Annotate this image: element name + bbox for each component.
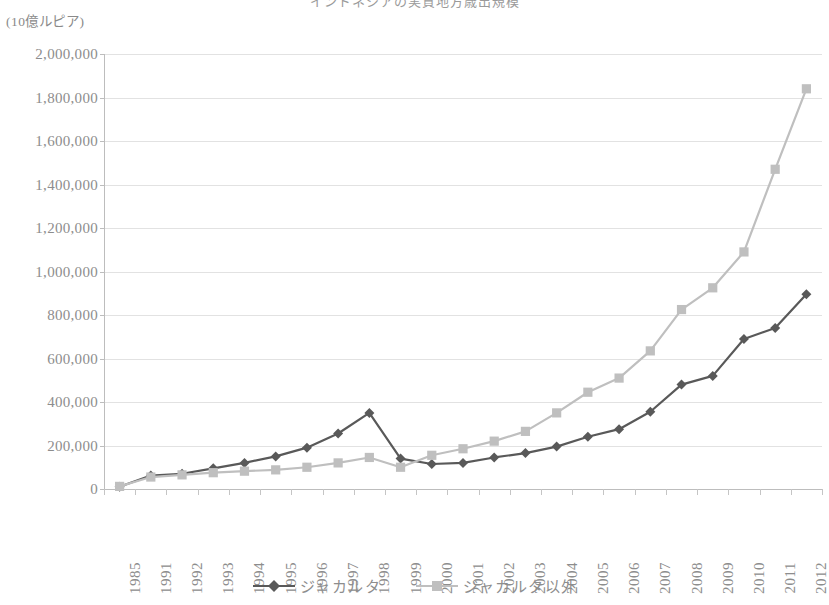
legend-diamond-icon [252,578,296,594]
data-point-marker [614,373,623,382]
y-axis-tick-label: 200,000 [6,437,98,454]
data-point-marker [458,444,467,453]
data-point-marker [583,388,592,397]
chart-title: インドネシアの実質地方歳出規模 [0,0,829,10]
legend-square-icon [415,578,459,594]
data-point-marker [302,463,311,472]
y-axis-tick-labels: 2,000,0001,800,0001,600,0001,400,0001,20… [0,54,98,490]
data-point-marker [552,408,561,417]
y-axis-tick-label: 600,000 [6,350,98,367]
legend-entry-2[interactable]: ジャカルタ以外 [415,575,578,596]
data-point-marker [396,463,405,472]
data-point-marker [271,451,281,461]
y-axis-tick-label: 1,000,000 [6,263,98,280]
chart-legend: ジャカルタジャカルタ以外 [0,575,829,596]
y-axis-tick-label: 800,000 [6,307,98,324]
y-axis-tick-label: 400,000 [6,394,98,411]
data-point-marker [365,453,374,462]
data-point-marker [240,467,249,476]
data-point-marker [302,443,312,453]
y-axis-tick-label: 0 [6,481,98,498]
y-axis-unit-label: (10億ルピア) [6,10,85,30]
x-axis-tick-mark [822,489,823,495]
data-point-marker [177,470,186,479]
data-point-marker [239,458,249,468]
data-point-marker [771,165,780,174]
data-point-marker [209,468,218,477]
data-point-marker [583,432,593,442]
data-point-marker [802,84,811,93]
series-line-2 [120,89,807,487]
legend-label: ジャカルタ [300,575,382,596]
data-point-marker [708,283,717,292]
data-point-marker [490,437,499,446]
data-point-marker [677,305,686,314]
data-point-marker [521,427,530,436]
data-point-marker [646,346,655,355]
y-axis-tick-label: 1,200,000 [6,220,98,237]
data-point-marker [458,458,468,468]
legend-entry-1[interactable]: ジャカルタ [252,575,382,596]
data-point-marker [552,442,562,452]
chart-container: インドネシアの実質地方歳出規模 (10億ルピア) 2,000,0001,800,… [0,0,829,605]
y-axis-tick-label: 1,600,000 [6,133,98,150]
data-point-marker [427,459,437,469]
data-point-marker [489,452,499,462]
data-point-marker [739,247,748,256]
data-point-marker [271,465,280,474]
y-axis-tick-label: 2,000,000 [6,46,98,63]
data-point-marker [427,451,436,460]
data-point-marker [115,482,124,491]
chart-series-layer [104,54,822,490]
legend-label: ジャカルタ以外 [463,575,578,596]
y-axis-tick-label: 1,800,000 [6,89,98,106]
data-point-marker [146,472,155,481]
y-axis-tick-label: 1,400,000 [6,176,98,193]
data-point-marker [520,448,530,458]
data-point-marker [334,458,343,467]
data-point-marker [614,424,624,434]
